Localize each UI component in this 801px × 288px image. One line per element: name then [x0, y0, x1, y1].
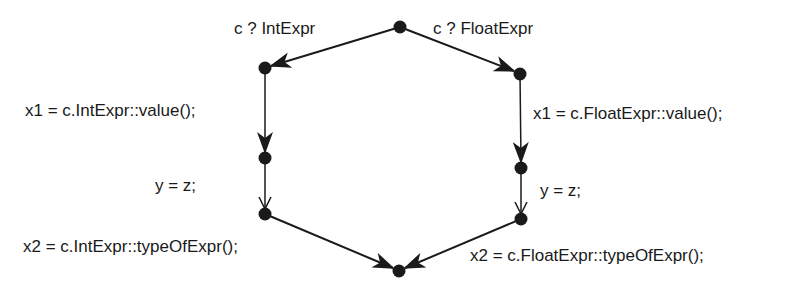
node-int3	[259, 208, 272, 221]
node-int1	[259, 62, 272, 75]
node-int2	[259, 152, 272, 165]
label-int-assign: y = z;	[155, 176, 196, 196]
node-float1	[514, 68, 527, 81]
label-cond-float: c ? FloatExpr	[433, 19, 533, 39]
edge-int-to-end	[265, 214, 393, 268]
label-float-type: x2 = c.FloatExpr::typeOfExpr();	[470, 246, 704, 266]
node-float2	[515, 162, 528, 175]
node-float3	[515, 213, 528, 226]
label-float-assign: y = z;	[540, 181, 581, 201]
label-float-value: x1 = c.FloatExpr::value();	[533, 104, 722, 124]
node-start	[394, 21, 407, 34]
node-end	[393, 265, 406, 278]
label-int-type: x2 = c.IntExpr::typeOfExpr();	[23, 237, 238, 257]
edge-float-value	[520, 74, 521, 162]
label-int-value: x1 = c.IntExpr::value();	[25, 101, 196, 121]
label-cond-int: c ? IntExpr	[234, 19, 315, 39]
